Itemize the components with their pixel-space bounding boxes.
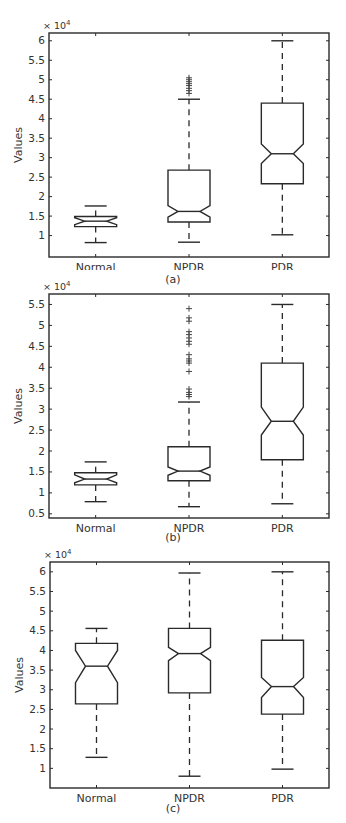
notched-box xyxy=(169,628,211,692)
box-npdr xyxy=(169,562,211,788)
y-tick-label: 1.5 xyxy=(29,742,46,754)
y-tick-label: 3 xyxy=(39,683,46,695)
notched-box xyxy=(262,640,304,714)
y-axis-label: Values xyxy=(13,657,26,693)
boxplot-panel-c: 11.522.533.544.555.56× 104ValuesNormalNP… xyxy=(0,0,346,823)
y-tick-label: 5.5 xyxy=(29,585,46,597)
y-tick-label: 4 xyxy=(39,644,46,656)
y-tick-label: 1 xyxy=(39,762,46,774)
boxplot-chart-c: 11.522.533.544.555.56× 104ValuesNormalNP… xyxy=(0,0,346,823)
y-tick-label: 5 xyxy=(39,605,46,617)
box-normal xyxy=(76,562,118,788)
y-tick-label: 6 xyxy=(39,565,46,577)
y-tick-label: 2.5 xyxy=(29,703,46,715)
y-tick-label: 3.5 xyxy=(29,664,46,676)
y-tick-label: 2 xyxy=(39,723,46,735)
box-pdr xyxy=(262,562,304,788)
y-multiplier-label: × 104 xyxy=(44,548,72,560)
notched-box xyxy=(76,643,118,704)
caption-c: (c) xyxy=(0,802,346,815)
y-tick-label: 4.5 xyxy=(29,624,46,636)
